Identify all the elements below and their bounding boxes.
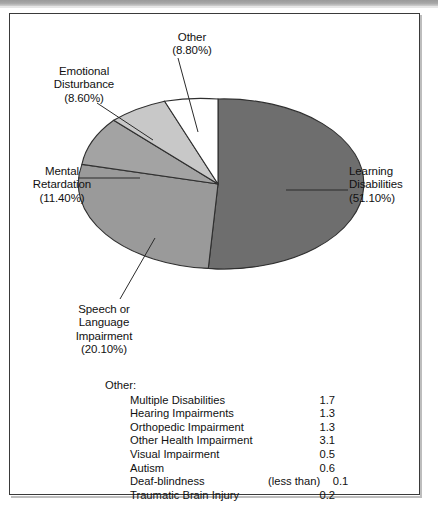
other-breakdown-row: Orthopedic Impairment1.3 [130,421,335,435]
pie-label-emotional-disturbance: Emotional Disturbance (8.60%) [32,65,136,105]
other-breakdown-row-name: Deaf-blindness [130,475,268,489]
pie-top-surface [78,98,364,269]
other-breakdown-row: Autism0.6 [130,462,335,476]
pie-label-speech-or-language-impairment: Speech or Language Impairment (20.10%) [56,303,152,357]
other-breakdown-row-value: 3.1 [311,434,335,448]
other-breakdown-row: Deaf-blindness(less than)0.1 [130,475,335,489]
pie-label-other: Other (8.80%) [149,31,235,58]
other-breakdown-row: Traumatic Brain Injury0.2 [130,489,335,503]
other-breakdown-row-name: Other Health Impairment [130,434,268,448]
other-breakdown-row-name: Orthopedic Impairment [130,421,268,435]
other-breakdown-row: Visual Impairment0.5 [130,448,335,462]
other-breakdown-row-qualifier: (less than) [268,475,324,489]
other-breakdown-row: Multiple Disabilities1.7 [130,394,335,408]
other-breakdown-row-value: 1.7 [311,394,335,408]
pie-label-mental-retardation: Mental Retardation (11.40%) [19,165,105,205]
other-breakdown-row-value: 0.2 [311,489,335,503]
other-breakdown-row: Other Health Impairment3.1 [130,434,335,448]
other-breakdown-row: Hearing Impairments1.3 [130,407,335,421]
other-breakdown-row-value: 0.1 [324,475,348,489]
other-breakdown-row-name: Autism [130,462,268,476]
other-breakdown-row-value: 1.3 [311,407,335,421]
other-breakdown-title: Other: [105,379,335,393]
other-breakdown-row-name: Traumatic Brain Injury [130,489,268,503]
pie-slice-learning-disabilities[interactable] [208,99,364,269]
other-breakdown-row-name: Hearing Impairments [130,407,268,421]
other-breakdown-row-value: 0.5 [311,448,335,462]
other-breakdown-row-value: 0.6 [311,462,335,476]
other-breakdown-table: Other: Multiple Disabilities1.7Hearing I… [105,379,335,502]
other-breakdown-rows: Multiple Disabilities1.7Hearing Impairme… [130,394,335,503]
other-breakdown-row-name: Multiple Disabilities [130,394,268,408]
other-breakdown-row-name: Visual Impairment [130,448,268,462]
other-breakdown-row-value: 1.3 [311,421,335,435]
pie-label-learning-disabilities: Learning Disabilities (51.10%) [349,165,433,205]
